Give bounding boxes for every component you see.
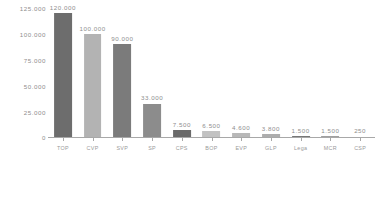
bar-chart: 025.00050.00075.000100.000125.000 120.00… [0, 0, 381, 198]
y-axis-tick-label: 100.000 [20, 31, 46, 38]
x-axis-category-label: SVP [116, 145, 128, 151]
x-axis-tick-mark [93, 138, 94, 141]
y-axis: 025.00050.00075.000100.000125.000 [0, 0, 46, 198]
x-axis-category-label: GLP [265, 145, 277, 151]
y-axis-tick-label: 50.000 [24, 83, 46, 90]
x-axis-tick-mark [212, 138, 213, 141]
x-axis-tick-mark [301, 138, 302, 141]
bar-value-label: 33.000 [141, 94, 163, 101]
bar-group: 100.000CVP [78, 34, 108, 138]
x-axis-category-label: BOP [205, 145, 217, 151]
bar-group: 120.000TOP [48, 13, 78, 138]
x-axis-category-label: CPS [176, 145, 188, 151]
bar-value-label: 6.500 [202, 122, 220, 129]
bar [113, 44, 131, 138]
x-axis-category-label: CVP [87, 145, 99, 151]
x-axis-tick-mark [360, 138, 361, 141]
x-axis-category-label: CSP [354, 145, 366, 151]
x-axis-tick-mark [182, 138, 183, 141]
y-axis-tick-label: 125.000 [20, 5, 46, 12]
plot-area: 120.000TOP100.000CVP90.000SVP33.000SP7.5… [48, 8, 375, 168]
x-axis-category-label: EVP [235, 145, 247, 151]
x-axis-tick-mark [330, 138, 331, 141]
bar-group: 33.000SP [137, 104, 167, 138]
x-axis-tick-mark [152, 138, 153, 141]
x-axis-category-label: MCR [324, 145, 337, 151]
x-axis-category-label: SP [148, 145, 156, 151]
bar [84, 34, 102, 138]
x-axis-category-label: TOP [57, 145, 69, 151]
bar-value-label: 7.500 [173, 121, 191, 128]
bar-value-label: 100.000 [79, 25, 105, 32]
x-axis-tick-mark [241, 138, 242, 141]
bar-group: 90.000SVP [107, 44, 137, 138]
bar-value-label: 120.000 [50, 4, 76, 11]
y-axis-tick-label: 75.000 [24, 57, 46, 64]
x-axis-tick-mark [271, 138, 272, 141]
x-axis-baseline [48, 137, 375, 138]
bar-value-label: 250 [354, 127, 366, 134]
x-axis-tick-mark [63, 138, 64, 141]
y-axis-tick-label: 0 [42, 135, 46, 141]
x-axis-tick-mark [122, 138, 123, 141]
bar [54, 13, 72, 138]
bar-value-label: 3.800 [262, 125, 280, 132]
bar-value-label: 1.500 [292, 127, 310, 134]
bar [143, 104, 161, 138]
bar-value-label: 1.500 [321, 127, 339, 134]
x-axis-category-label: Lega [294, 145, 307, 151]
y-axis-tick-label: 25.000 [24, 109, 46, 116]
bar-value-label: 90.000 [111, 35, 133, 42]
bar-value-label: 4.600 [232, 124, 250, 131]
